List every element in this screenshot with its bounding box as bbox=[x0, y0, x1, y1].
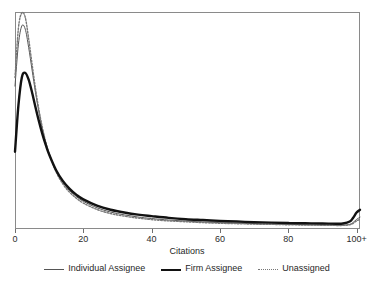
legend-label-individual-assignee: Individual Assignee bbox=[68, 263, 145, 274]
x-tick-label: 20 bbox=[78, 234, 88, 245]
legend-item-firm-assignee: Firm Assignee bbox=[161, 263, 242, 274]
series-line-firm-assignee bbox=[15, 73, 360, 224]
x-tick-label: 60 bbox=[215, 234, 225, 245]
series-line-unassigned bbox=[15, 12, 360, 225]
thin-line-icon bbox=[44, 265, 64, 273]
series-line-individual-assignee bbox=[15, 25, 360, 225]
x-tick-mark bbox=[288, 229, 289, 233]
x-tick-mark bbox=[15, 229, 16, 233]
legend-label-firm-assignee: Firm Assignee bbox=[185, 263, 242, 274]
x-tick-mark bbox=[152, 229, 153, 233]
x-tick-mark bbox=[357, 229, 358, 233]
x-tick-mark bbox=[83, 229, 84, 233]
x-tick-label: 0 bbox=[12, 234, 17, 245]
x-tick-label: 100+ bbox=[346, 234, 366, 245]
plot-area bbox=[15, 12, 360, 229]
x-tick-label: 80 bbox=[283, 234, 293, 245]
legend-label-unassigned: Unassigned bbox=[282, 263, 330, 274]
chart-legend: Individual Assignee Firm Assignee Unassi… bbox=[0, 263, 374, 274]
legend-item-individual-assignee: Individual Assignee bbox=[44, 263, 145, 274]
x-tick-mark bbox=[220, 229, 221, 233]
x-tick-label: 40 bbox=[147, 234, 157, 245]
dotted-line-icon bbox=[258, 265, 278, 273]
citations-density-figure: 020406080100+ Citations Individual Assig… bbox=[0, 0, 374, 286]
series-paths bbox=[15, 12, 360, 225]
legend-item-unassigned: Unassigned bbox=[258, 263, 330, 274]
thick-line-icon bbox=[161, 265, 181, 273]
x-axis-title: Citations bbox=[0, 246, 374, 257]
